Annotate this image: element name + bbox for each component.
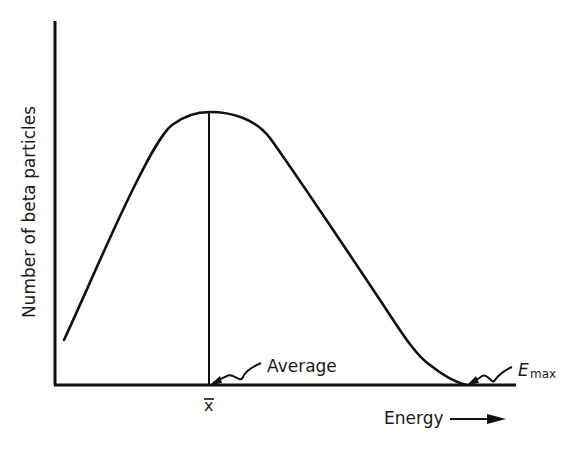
y-axis-label: Number of beta particles <box>19 106 39 318</box>
spectrum-curve <box>64 112 466 385</box>
x-axis-label: Energy <box>384 408 444 428</box>
right-arrow-icon <box>450 414 506 424</box>
average-label: Average <box>267 356 337 376</box>
emax-subscript: max <box>530 367 556 381</box>
emax-arrow-icon <box>467 367 512 385</box>
emax-label: E <box>518 360 529 380</box>
average-arrow-icon <box>210 363 261 385</box>
beta-spectrum-chart: Average x E max Energy Number of beta pa… <box>0 0 576 450</box>
